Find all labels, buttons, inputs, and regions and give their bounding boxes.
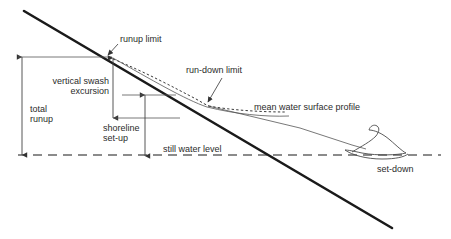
runup-limit-label: runup limit — [120, 34, 162, 44]
set-down-label: set-down — [377, 164, 414, 174]
total-runup-label-line1: total — [30, 104, 47, 114]
run-down-limit-label: run-down limit — [186, 65, 243, 75]
total-runup-label-line2: runup — [30, 114, 53, 124]
still-water-level-label: still water level — [163, 144, 222, 154]
diagram-canvas: runup limit run-down limit vertical swas… — [0, 0, 451, 239]
shoreline-setup-label-line1: shoreline — [103, 123, 140, 133]
mean-water-surface-profile-label: mean water surface profile — [254, 102, 360, 112]
shoreline-setup-label-line2: set-up — [103, 133, 128, 143]
runup-setup-diagram: runup limit run-down limit vertical swas… — [0, 0, 451, 239]
vertical-swash-excursion-label-line2: excursion — [70, 86, 109, 96]
vertical-swash-excursion-label-line1: vertical swash — [52, 76, 109, 86]
